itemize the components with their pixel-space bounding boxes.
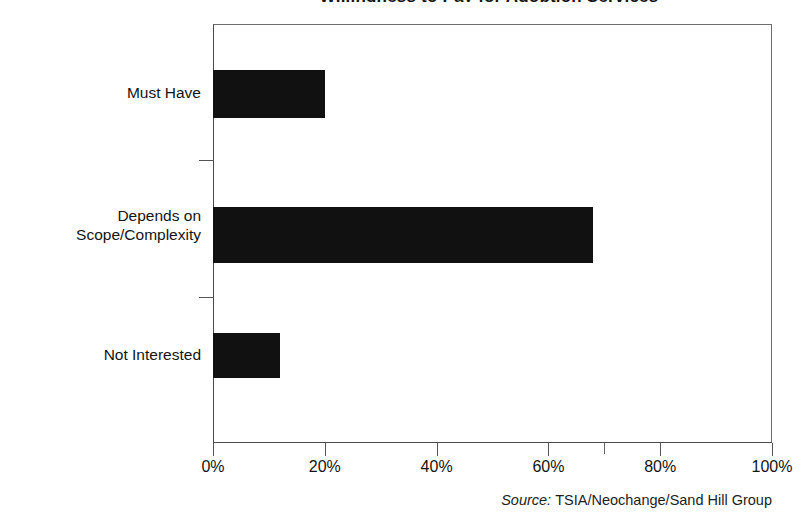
category-label-depends-on-scope-complexity: Depends on Scope/Complexity [1, 206, 201, 244]
source-note: Source: TSIA/Neochange/Sand Hill Group [501, 492, 772, 508]
bars-layer [213, 24, 772, 443]
category-axis-labels: Must Have Depends on Scope/Complexity No… [0, 0, 201, 518]
source-value: TSIA/Neochange/Sand Hill Group [555, 492, 772, 508]
x-axis-tick-label-60: 60% [503, 458, 593, 476]
chart-figure: Willingness to Pay for Adoption Services… [0, 0, 810, 518]
x-axis-tick-0 [213, 443, 214, 456]
x-axis-tick-40 [437, 443, 438, 456]
x-axis-tick-20 [325, 443, 326, 456]
x-axis-tick-label-40: 40% [392, 458, 482, 476]
x-axis-tick-80 [660, 443, 661, 456]
category-label-must-have: Must Have [1, 83, 201, 102]
bar-depends-on-scope-complexity [213, 207, 593, 263]
category-tick-1 [199, 160, 213, 161]
x-axis-tick-label-20: 20% [280, 458, 370, 476]
category-label-not-interested: Not Interested [1, 345, 201, 364]
x-axis-tick-label-100: 100% [727, 458, 810, 476]
category-tick-2 [199, 297, 213, 298]
x-axis-tick-label-80: 80% [615, 458, 705, 476]
bar-must-have [213, 70, 325, 118]
chart-title: Willingness to Pay for Adoption Services [205, 0, 773, 2]
source-label: Source: [501, 492, 551, 508]
x-axis-tick-100 [772, 443, 773, 456]
bar-not-interested [213, 333, 280, 378]
x-axis-tick-60 [548, 443, 549, 456]
x-axis-minor-tick-70 [604, 443, 605, 454]
x-axis-tick-label-0: 0% [168, 458, 258, 476]
